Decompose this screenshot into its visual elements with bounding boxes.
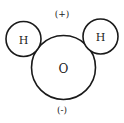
water-molecule-diagram: O H H (+) (-) (0, 0, 124, 123)
negative-charge-label: (-) (57, 105, 67, 115)
oxygen-label: O (59, 62, 69, 76)
positive-charge-label: (+) (55, 9, 70, 19)
hydrogen-atom-right: H (83, 19, 118, 54)
hydrogen-left-label: H (19, 34, 29, 47)
hydrogen-atom-left: H (6, 22, 41, 57)
hydrogen-right-label: H (96, 31, 106, 44)
